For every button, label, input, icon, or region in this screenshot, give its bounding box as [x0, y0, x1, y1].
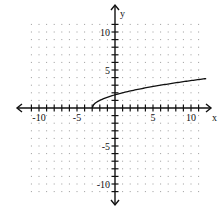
grid-dot	[61, 39, 62, 40]
grid-dot	[137, 146, 138, 147]
grid-dot	[31, 85, 32, 86]
grid-dot	[46, 100, 47, 101]
grid-dot	[122, 176, 123, 177]
grid-dot	[145, 161, 146, 162]
grid-dot	[99, 146, 100, 147]
grid-dot	[160, 153, 161, 154]
grid-dot	[130, 92, 131, 93]
grid-dot	[130, 146, 131, 147]
grid-dot	[84, 146, 85, 147]
grid-dot	[175, 24, 176, 25]
grid-dot	[153, 130, 154, 131]
grid-dot	[39, 85, 40, 86]
grid-dot	[54, 115, 55, 116]
y-axis-label: y	[120, 8, 125, 19]
grid-dot	[191, 62, 192, 63]
grid-dot	[69, 161, 70, 162]
grid-dot	[198, 24, 199, 25]
grid-dot	[84, 92, 85, 93]
grid-dot	[107, 77, 108, 78]
grid-dot	[153, 184, 154, 185]
grid-dot	[69, 62, 70, 63]
grid-dot	[183, 85, 184, 86]
grid-dot	[122, 54, 123, 55]
grid-dot	[198, 168, 199, 169]
grid-dot	[130, 54, 131, 55]
grid-dot	[46, 176, 47, 177]
grid-dot	[84, 70, 85, 71]
grid-dot	[145, 85, 146, 86]
grid-dot	[122, 191, 123, 192]
grid-dot	[99, 39, 100, 40]
grid-dot	[191, 92, 192, 93]
grid-dot	[183, 54, 184, 55]
x-axis-label: x	[212, 112, 217, 123]
grid-dot	[107, 47, 108, 48]
grid-dot	[54, 176, 55, 177]
grid-dot	[183, 191, 184, 192]
grid-dot	[153, 32, 154, 33]
grid-dot	[175, 92, 176, 93]
grid-dot	[137, 100, 138, 101]
grid-dot	[46, 146, 47, 147]
grid-dot	[137, 115, 138, 116]
grid-dot	[99, 115, 100, 116]
grid-dot	[84, 138, 85, 139]
grid-dot	[183, 176, 184, 177]
grid-dot	[39, 168, 40, 169]
grid-dot	[175, 47, 176, 48]
grid-dot	[122, 138, 123, 139]
grid-dot	[168, 168, 169, 169]
grid-dot	[61, 62, 62, 63]
grid-dot	[69, 100, 70, 101]
grid-dot	[84, 47, 85, 48]
y-tick-label: 10	[100, 27, 110, 38]
grid-dot	[39, 161, 40, 162]
grid-dot	[160, 54, 161, 55]
grid-dot	[77, 39, 78, 40]
grid-dot	[191, 47, 192, 48]
grid-dot	[183, 168, 184, 169]
grid-dot	[160, 191, 161, 192]
grid-dot	[191, 153, 192, 154]
grid-dot	[122, 153, 123, 154]
grid-dot	[54, 32, 55, 33]
grid-dot	[92, 62, 93, 63]
grid-dot	[31, 24, 32, 25]
grid-dot	[46, 70, 47, 71]
grid-dot	[130, 24, 131, 25]
grid-dot	[153, 176, 154, 177]
grid-dot	[99, 161, 100, 162]
grid-dot	[99, 176, 100, 177]
grid-dot	[122, 39, 123, 40]
grid-dot	[160, 100, 161, 101]
grid-dot	[168, 184, 169, 185]
grid-dot	[92, 130, 93, 131]
grid-dot	[92, 32, 93, 33]
grid-dot	[191, 70, 192, 71]
grid-dot	[145, 62, 146, 63]
grid-dot	[84, 153, 85, 154]
grid-dot	[31, 54, 32, 55]
grid-dot	[69, 70, 70, 71]
grid-dot	[130, 85, 131, 86]
grid-dot	[39, 39, 40, 40]
grid-dot	[61, 85, 62, 86]
grid-dot	[99, 24, 100, 25]
grid-dot	[145, 39, 146, 40]
grid-dot	[84, 130, 85, 131]
grid-dot	[69, 39, 70, 40]
grid-dot	[84, 54, 85, 55]
grid-dot	[84, 184, 85, 185]
grid-dot	[61, 176, 62, 177]
grid-dot	[92, 54, 93, 55]
grid-dot	[39, 54, 40, 55]
grid-dot	[107, 54, 108, 55]
grid-dot	[31, 153, 32, 154]
grid-dot	[107, 85, 108, 86]
grid-dot	[84, 77, 85, 78]
grid-dot	[99, 85, 100, 86]
grid-dot	[153, 153, 154, 154]
grid-dot	[153, 92, 154, 93]
grid-dot	[54, 62, 55, 63]
